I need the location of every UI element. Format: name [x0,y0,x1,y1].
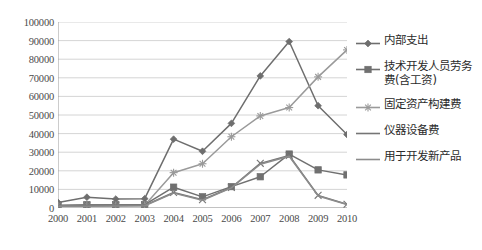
y-axis-tick-label: 90000 [29,35,54,46]
y-axis-tick-label: 100000 [24,17,54,28]
line-chart: 0100002000030000400005000060000700008000… [0,0,482,250]
x-axis-tick-label: 2003 [135,213,155,224]
data-point [227,133,235,141]
y-axis-tick-label: 50000 [29,110,54,121]
x-axis-tick-label: 2001 [77,213,97,224]
data-point [365,40,372,47]
y-axis-tick-label: 0 [49,203,54,214]
y-axis-tick-label: 60000 [29,91,54,102]
y-axis-tick-label: 20000 [29,165,54,176]
y-axis-tick-label: 30000 [29,147,54,158]
x-axis-tick-label: 2010 [337,213,357,224]
plot-svg [58,22,347,208]
data-point [199,160,207,168]
y-axis-tick-label: 80000 [29,54,54,65]
legend-square-icon [355,62,381,75]
legend-item-0[interactable]: 内部支出 [355,34,482,49]
legend-item-label: 固定资产构建费 [384,98,461,112]
x-axis-tick-label: 2008 [279,213,299,224]
data-point [314,73,322,81]
data-point [170,184,176,190]
data-point [256,112,264,120]
x-axis-tick-label: 2004 [163,213,183,224]
chart-legend: 内部支出技术开发人员劳务 费(含工资)固定资产构建费仪器设备费用于开发新产品 [355,34,482,176]
x-axis: 2000200120022003200420052006200720082009… [58,213,347,235]
legend-item-label: 内部支出 [384,34,428,48]
legend-line-icon [355,152,381,165]
x-axis-tick-label: 2006 [221,213,241,224]
series-line-0 [58,42,347,203]
legend-star-icon [355,100,381,113]
y-axis-tick-label: 70000 [29,72,54,83]
x-axis-tick-label: 2009 [308,213,328,224]
x-axis-tick-label: 2000 [48,213,68,224]
legend-line-icon [355,126,381,139]
legend-item-2[interactable]: 固定资产构建费 [355,98,482,113]
legend-item-4[interactable]: 用于开发新产品 [355,150,482,165]
legend-diamond-icon [355,36,381,49]
data-point [170,169,178,177]
plot-area [58,22,347,208]
legend-item-label: 仪器设备费 [384,124,439,138]
y-axis-tick-label: 40000 [29,128,54,139]
legend-item-label: 技术开发人员劳务 费(含工资) [384,60,472,87]
data-point [364,104,372,112]
data-point [257,174,263,180]
data-point [84,194,91,201]
x-axis-tick-label: 2002 [106,213,126,224]
x-axis-tick-label: 2007 [250,213,270,224]
data-point [170,136,177,143]
data-point [315,167,321,173]
legend-item-1[interactable]: 技术开发人员劳务 费(含工资) [355,60,482,87]
legend-item-label: 用于开发新产品 [384,150,461,164]
data-point [285,104,293,112]
y-axis-tick-label: 10000 [29,184,54,195]
data-point [365,66,371,72]
y-axis: 0100002000030000400005000060000700008000… [0,22,54,208]
data-point [141,195,148,202]
legend-item-3[interactable]: 仪器设备费 [355,124,482,139]
data-point [344,172,347,178]
x-axis-tick-label: 2005 [192,213,212,224]
